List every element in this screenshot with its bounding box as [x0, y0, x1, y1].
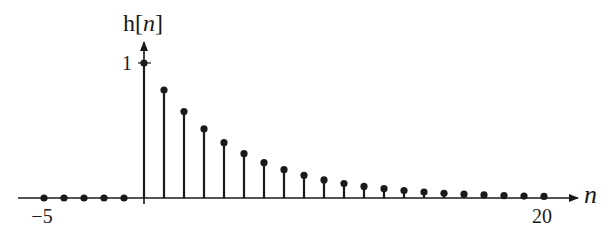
stem-marker	[460, 191, 467, 198]
stem-marker	[180, 108, 187, 115]
stem-marker	[440, 190, 447, 197]
stem-marker	[300, 172, 307, 179]
stem-marker	[60, 194, 67, 201]
stem-marker	[280, 166, 287, 173]
stem-marker	[340, 180, 347, 187]
stem-marker	[160, 86, 167, 93]
y-tick-label-1: 1	[122, 52, 132, 74]
stem-marker	[520, 193, 527, 200]
stem-marker	[380, 185, 387, 192]
x-tick-label-min: −5	[31, 205, 52, 227]
stem-marker	[220, 139, 227, 146]
stem-series	[40, 59, 547, 201]
x-axis-title: n	[584, 180, 597, 209]
stem-marker	[360, 183, 367, 190]
stem-marker	[500, 192, 507, 199]
stem-plot: h[n] 1 −5 20 n	[0, 0, 605, 244]
stem-marker	[200, 125, 207, 132]
stem-marker	[480, 191, 487, 198]
stem-marker	[100, 194, 107, 201]
stem-marker	[420, 188, 427, 195]
x-tick-label-max: 20	[532, 205, 552, 227]
stem-marker	[400, 187, 407, 194]
stem-marker	[260, 159, 267, 166]
stem-marker	[540, 193, 547, 200]
stem-marker	[320, 176, 327, 183]
stem-marker	[80, 194, 87, 201]
y-axis-title: h[n]	[123, 10, 163, 36]
stem-marker	[240, 150, 247, 157]
stem-marker	[140, 59, 147, 66]
stem-marker	[40, 194, 47, 201]
stem-marker	[120, 194, 127, 201]
